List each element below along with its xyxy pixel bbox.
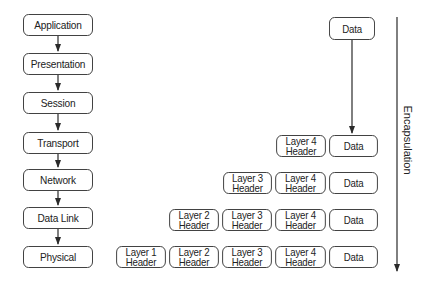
- segment-label: Layer 4 Header: [285, 247, 316, 267]
- segment-data: Data: [329, 209, 378, 231]
- segment-label: Layer 4 Header: [286, 136, 317, 156]
- segment-layer1-header: Layer 1 Header: [116, 246, 166, 268]
- segment-layer3-header: Layer 3 Header: [223, 172, 272, 194]
- segment-layer4-header: Layer 4 Header: [276, 135, 326, 157]
- encapsulation-label: Encapsulation: [402, 105, 414, 174]
- segment-layer4-header: Layer 4 Header: [275, 172, 326, 194]
- segment-label: Layer 3 Header: [232, 210, 263, 230]
- segment-label: Data: [344, 141, 364, 151]
- segment-layer4-header: Layer 4 Header: [275, 246, 326, 268]
- segment-label: Layer 1 Header: [126, 247, 157, 267]
- data-box-top: Data: [329, 17, 375, 40]
- segment-layer3-header: Layer 3 Header: [222, 209, 272, 231]
- segment-label: Layer 2 Header: [179, 247, 210, 267]
- segment-data: Data: [329, 135, 378, 157]
- segment-layer3-header: Layer 3 Header: [222, 246, 272, 268]
- segment-label: Data: [344, 252, 364, 262]
- segment-layer2-header: Layer 2 Header: [169, 246, 219, 268]
- segment-label: Data: [344, 178, 364, 188]
- segment-label: Layer 3 Header: [232, 173, 263, 193]
- segment-label: Layer 3 Header: [232, 247, 263, 267]
- data-label: Data: [342, 24, 362, 34]
- segment-data: Data: [329, 172, 378, 194]
- segment-label: Layer 2 Header: [179, 210, 210, 230]
- segment-data: Data: [329, 246, 378, 268]
- segment-label: Layer 4 Header: [285, 210, 316, 230]
- segment-label: Layer 4 Header: [285, 173, 316, 193]
- segment-layer2-header: Layer 2 Header: [169, 209, 219, 231]
- segment-label: Data: [344, 215, 364, 225]
- segment-layer4-header: Layer 4 Header: [275, 209, 326, 231]
